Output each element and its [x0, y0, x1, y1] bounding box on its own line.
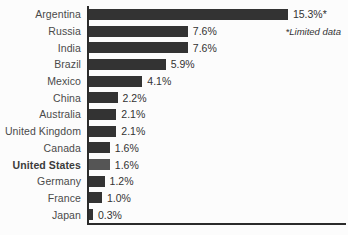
category-label: Australia: [0, 108, 87, 120]
value-label: 0.3%: [98, 209, 122, 221]
value-label: 7.6%: [193, 25, 217, 37]
category-label: China: [0, 92, 87, 104]
x-axis-line: [87, 223, 346, 225]
bar: [89, 159, 110, 170]
category-label: Canada: [0, 142, 87, 154]
category-label: United States: [0, 159, 87, 171]
limited-data-note: *Limited data: [286, 26, 341, 37]
category-label: Japan: [0, 209, 87, 221]
value-label: 1.6%: [115, 159, 139, 171]
bar: [89, 109, 116, 120]
value-label: 5.9%: [171, 58, 195, 70]
bar-row: Argentina15.3%*: [0, 6, 348, 23]
bar-rows: Argentina15.3%*Russia7.6%India7.6%Brazil…: [0, 6, 348, 223]
bar-row: France1.0%: [0, 190, 348, 207]
value-label: 2.1%: [121, 108, 145, 120]
bar-track: 15.3%*: [87, 6, 348, 23]
bar-track: 1.0%: [87, 190, 348, 207]
bar-row: United States1.6%: [0, 156, 348, 173]
value-label: 15.3%*: [293, 8, 327, 20]
bar: [89, 192, 102, 203]
bar: [89, 26, 188, 37]
category-label: United Kingdom: [0, 125, 87, 137]
value-label: 1.2%: [110, 175, 134, 187]
bar-track: 7.6%: [87, 39, 348, 56]
bar-track: 2.1%: [87, 123, 348, 140]
value-label: 4.1%: [147, 75, 171, 87]
bar-track: 5.9%: [87, 56, 348, 73]
bar-row: India7.6%: [0, 39, 348, 56]
bar-row: Brazil5.9%: [0, 56, 348, 73]
category-label: Germany: [0, 175, 87, 187]
value-label: 1.0%: [107, 192, 131, 204]
bar: [89, 59, 166, 70]
bar-track: 4.1%: [87, 73, 348, 90]
bar: [89, 209, 93, 220]
bar: [89, 42, 188, 53]
value-label: 1.6%: [115, 142, 139, 154]
bar: [89, 142, 110, 153]
bar-track: 1.6%: [87, 156, 348, 173]
bar-track: 2.2%: [87, 89, 348, 106]
value-label: 2.2%: [123, 92, 147, 104]
bar-track: 1.6%: [87, 140, 348, 157]
bar-row: United Kingdom2.1%: [0, 123, 348, 140]
bar-row: China2.2%: [0, 89, 348, 106]
bar-track: 0.3%: [87, 206, 348, 223]
bar: [89, 92, 118, 103]
category-label: Argentina: [0, 8, 87, 20]
bar-row: Mexico4.1%: [0, 73, 348, 90]
bar-row: Germany1.2%: [0, 173, 348, 190]
bar-chart: Argentina15.3%*Russia7.6%India7.6%Brazil…: [0, 0, 348, 235]
category-label: Russia: [0, 25, 87, 37]
bar: [89, 126, 116, 137]
bar-track: 1.2%: [87, 173, 348, 190]
bar: [89, 76, 142, 87]
bar-row: Australia2.1%: [0, 106, 348, 123]
bar-track: 2.1%: [87, 106, 348, 123]
bar: [89, 176, 105, 187]
category-label: Mexico: [0, 75, 87, 87]
category-label: France: [0, 192, 87, 204]
value-label: 7.6%: [193, 42, 217, 54]
y-axis-line: [87, 6, 89, 225]
bar-row: Japan0.3%: [0, 206, 348, 223]
bar: [89, 9, 288, 20]
category-label: Brazil: [0, 58, 87, 70]
bar-row: Canada1.6%: [0, 140, 348, 157]
value-label: 2.1%: [121, 125, 145, 137]
category-label: India: [0, 42, 87, 54]
